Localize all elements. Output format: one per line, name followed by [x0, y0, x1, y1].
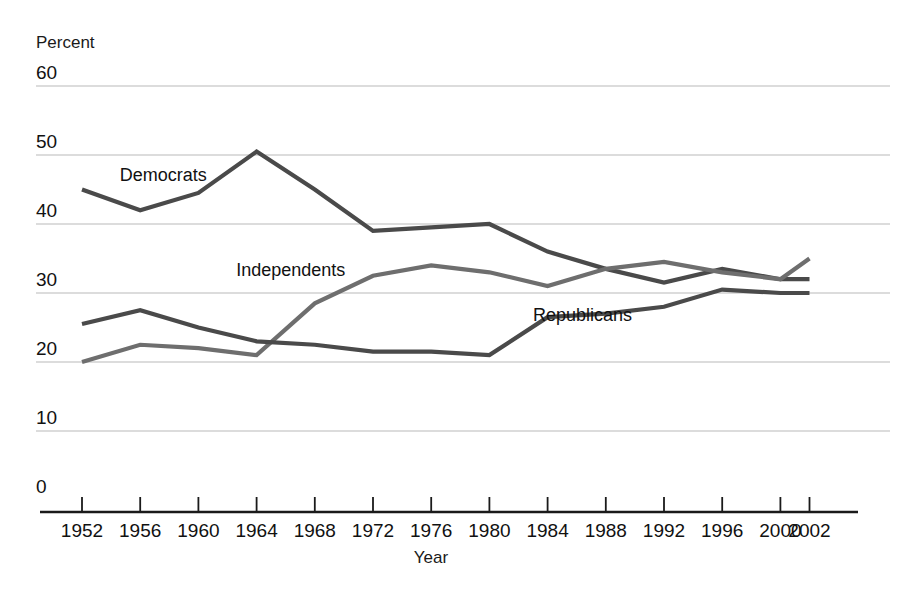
x-tick-label-1980: 1980 — [468, 520, 510, 541]
x-tick-label-1984: 1984 — [526, 520, 569, 541]
x-tick-label-1988: 1988 — [585, 520, 627, 541]
y-tick-label-60: 60 — [36, 62, 57, 83]
y-tick-label-50: 50 — [36, 131, 57, 152]
series-label-democrats: Democrats — [120, 165, 207, 185]
x-tick-label-1968: 1968 — [294, 520, 336, 541]
series-label-independents: Independents — [236, 260, 345, 280]
y-tick-label-30: 30 — [36, 269, 57, 290]
x-tick-label-1972: 1972 — [352, 520, 394, 541]
y-tick-label-0: 0 — [36, 476, 47, 497]
series-label-republicans: Republicans — [533, 305, 632, 325]
y-tick-label-10: 10 — [36, 407, 57, 428]
y-tick-label-20: 20 — [36, 338, 57, 359]
series-inline-labels: DemocratsIndependentsRepublicans — [120, 165, 632, 324]
x-tick-label-1960: 1960 — [177, 520, 219, 541]
y-axis-tick-labels: 0102030405060 — [36, 62, 57, 497]
x-tick-label-1992: 1992 — [643, 520, 685, 541]
x-tick-label-1964: 1964 — [235, 520, 278, 541]
x-axis-ticks — [82, 497, 810, 512]
x-axis-label: Year — [414, 548, 449, 567]
x-tick-label-1996: 1996 — [701, 520, 743, 541]
x-tick-label-1976: 1976 — [410, 520, 452, 541]
x-tick-label-1952: 1952 — [61, 520, 103, 541]
party-identification-line-chart: 0102030405060 19521956196019641968197219… — [0, 0, 898, 594]
x-tick-label-2002: 2002 — [788, 520, 830, 541]
series-line-republicans — [82, 290, 810, 356]
y-tick-label-40: 40 — [36, 200, 57, 221]
x-tick-label-1956: 1956 — [119, 520, 161, 541]
gridlines — [36, 86, 890, 431]
chart-canvas: 0102030405060 19521956196019641968197219… — [0, 0, 898, 594]
y-axis-label: Percent — [36, 33, 95, 52]
x-axis-tick-labels: 1952195619601964196819721976198019841988… — [61, 520, 831, 541]
